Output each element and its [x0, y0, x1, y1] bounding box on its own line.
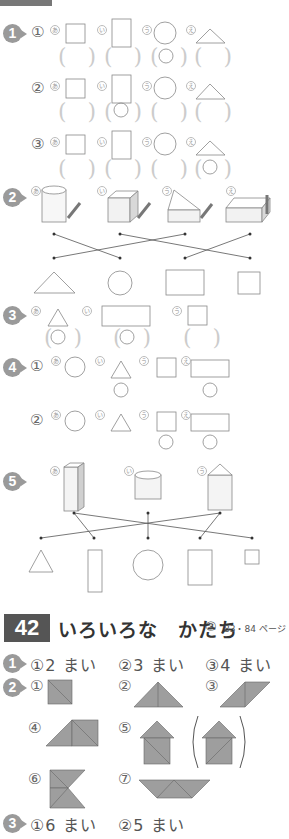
section-number: 42	[4, 614, 50, 642]
q1-row2-number: ②	[31, 79, 44, 97]
answer-parens: ( )	[104, 99, 142, 124]
answer-parens: ( )	[150, 99, 188, 124]
label-a: あ	[50, 137, 60, 147]
answer-parens: ( )	[58, 156, 96, 181]
label-i: い	[82, 306, 92, 316]
s42-q2-item-1: ①	[30, 677, 43, 695]
label-e: え	[186, 81, 196, 91]
question-2-badge: 2	[3, 188, 22, 207]
label-a: あ	[31, 306, 41, 316]
s42-q2-item-6: ⑥	[28, 770, 41, 788]
s42-q1-answer-2: ②3 まい	[118, 652, 185, 676]
label-i: い	[124, 466, 134, 476]
s42-q2-item-5: ⑤	[118, 719, 131, 737]
answer-parens: ( )	[58, 99, 96, 124]
answer-parens: ( )	[150, 44, 188, 69]
section-42-header: 42 いろいろな かたち ③ 83・84 ページ	[0, 612, 289, 646]
label-u: う	[142, 137, 152, 147]
label-e: え	[181, 410, 191, 420]
answer-parens: ( )	[183, 325, 221, 350]
label-u: う	[142, 81, 152, 91]
label-a: あ	[50, 81, 60, 91]
answer-parens: ( )	[44, 325, 82, 350]
label-e: え	[186, 137, 196, 147]
label-a: あ	[51, 410, 61, 420]
label-u: う	[172, 306, 182, 316]
label-e: え	[186, 25, 196, 35]
label-i: い	[97, 186, 107, 196]
answer-parens: ( )	[194, 44, 232, 69]
answer-parens: ( )	[113, 325, 151, 350]
s42-q3-answer-1: ①6 まい	[30, 812, 97, 836]
s42-q2-item-2: ②	[118, 677, 131, 695]
answer-parens: ( )	[58, 44, 96, 69]
s42-q3-answer-2: ②5 まい	[118, 812, 185, 836]
q1-row3-number: ③	[31, 135, 44, 153]
label-u: う	[139, 356, 149, 366]
answer-parens: ( )	[104, 156, 142, 181]
s42-q2-item-7: ⑦	[118, 770, 131, 788]
answer-parens: ( )	[194, 99, 232, 124]
answer-parens: ( )	[194, 156, 232, 181]
label-a: あ	[50, 466, 60, 476]
section-subnumber: ③	[205, 619, 217, 634]
s42-question-1-badge: 1	[3, 654, 22, 673]
s42-q2-item-4: ④	[28, 719, 41, 737]
question-3-badge: 3	[3, 306, 22, 325]
label-u: う	[142, 25, 152, 35]
question-5-badge: 5	[3, 472, 22, 491]
label-i: い	[97, 81, 107, 91]
q1-row1-number: ①	[31, 23, 44, 41]
label-u: う	[162, 186, 172, 196]
label-i: い	[95, 356, 105, 366]
label-e: え	[226, 186, 236, 196]
label-u: う	[139, 410, 149, 420]
label-a: あ	[51, 356, 61, 366]
question-1-badge: 1	[3, 24, 22, 43]
label-a: あ	[31, 186, 41, 196]
s42-q2-item-3: ③	[205, 677, 218, 695]
page-reference: 83・84 ページ	[224, 622, 286, 635]
s42-question-3-badge: 3	[3, 814, 22, 833]
label-i: い	[95, 410, 105, 420]
question-4-badge: 4	[3, 358, 22, 377]
label-u: う	[197, 466, 207, 476]
s42-question-2-badge: 2	[3, 678, 22, 697]
label-a: あ	[50, 25, 60, 35]
q4-row1-number: ①	[30, 357, 43, 375]
answer-parens: ( )	[104, 44, 142, 69]
label-e: え	[181, 356, 191, 366]
q4-row2-number: ②	[30, 411, 43, 429]
s42-q1-answer-3: ③4 まい	[205, 652, 272, 676]
answer-parens: ( )	[150, 156, 188, 181]
s42-q1-answer-1: ①2 まい	[30, 652, 97, 676]
label-i: い	[97, 137, 107, 147]
label-i: い	[97, 25, 107, 35]
